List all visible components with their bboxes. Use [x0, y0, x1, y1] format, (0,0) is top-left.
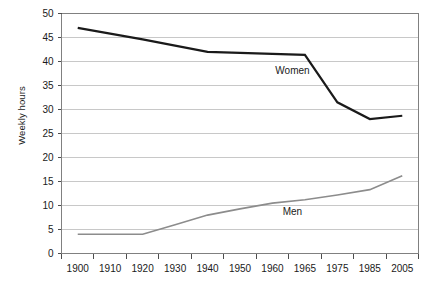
y-tick-label: 45 — [42, 32, 54, 43]
y-tick-label: 5 — [48, 224, 54, 235]
x-tick-label: 1910 — [99, 263, 122, 274]
y-tick-label: 15 — [42, 176, 54, 187]
series-line-women — [78, 28, 403, 119]
y-tick-label: 30 — [42, 104, 54, 115]
x-tick-label: 1920 — [132, 263, 155, 274]
x-tick-label: 1940 — [196, 263, 219, 274]
chart-container: Weekly hours 05101520253035404550 190019… — [0, 0, 436, 281]
series-lines-group — [78, 28, 403, 234]
y-tick-label: 25 — [42, 128, 54, 139]
series-labels-group: WomenMen — [275, 65, 309, 218]
x-tick-labels-group: 1900191019201930194019501960196519751985… — [67, 263, 414, 274]
y-tick-label: 35 — [42, 80, 54, 91]
x-tick-label: 1985 — [359, 263, 382, 274]
x-tick-marks-group — [62, 254, 419, 259]
x-tick-label: 1965 — [294, 263, 317, 274]
series-label-men: Men — [283, 206, 302, 217]
x-tick-label: 1960 — [261, 263, 284, 274]
y-tick-label: 10 — [42, 200, 54, 211]
y-tick-label: 50 — [42, 8, 54, 19]
line-chart-plot: 05101520253035404550 1900191019201930194… — [0, 0, 436, 281]
gridlines-group — [62, 14, 419, 230]
x-tick-label: 1900 — [67, 263, 90, 274]
y-tick-label: 20 — [42, 152, 54, 163]
x-tick-label: 2005 — [391, 263, 414, 274]
x-tick-label: 1930 — [164, 263, 187, 274]
series-label-women: Women — [275, 65, 309, 76]
y-tick-labels-group: 05101520253035404550 — [42, 8, 54, 259]
y-tick-marks-group — [58, 14, 62, 254]
x-tick-label: 1975 — [326, 263, 349, 274]
y-tick-label: 40 — [42, 56, 54, 67]
x-tick-label: 1950 — [229, 263, 252, 274]
y-tick-label: 0 — [48, 248, 54, 259]
